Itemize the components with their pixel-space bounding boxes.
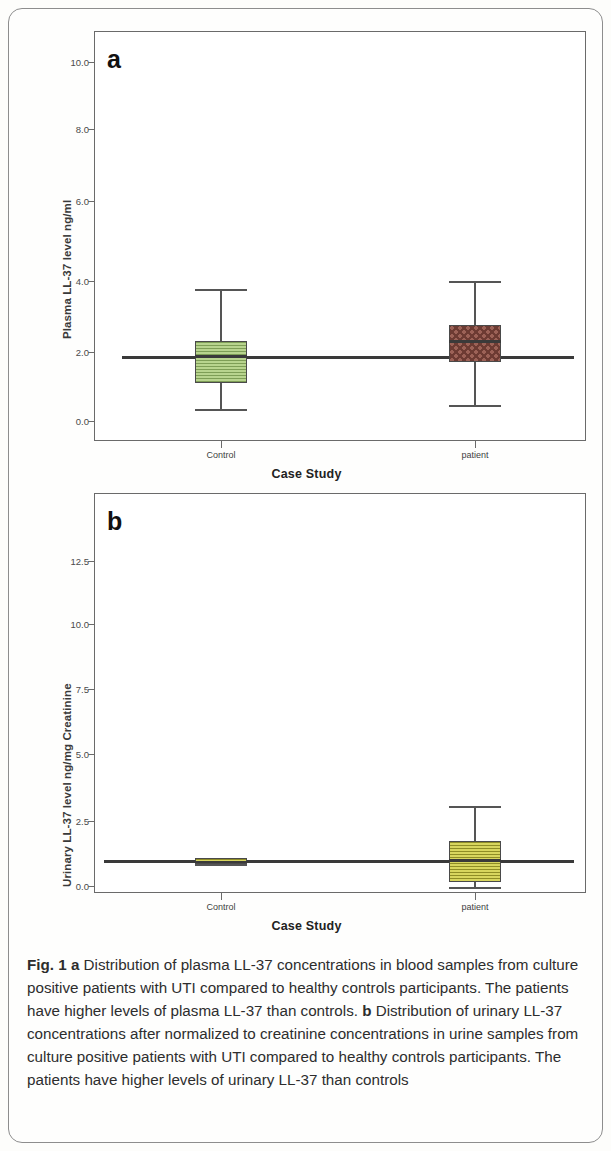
panel-b-ytick-label: 12.5 (57, 556, 89, 567)
panel-b-y-axis-label: Urinary LL-37 level ng/mg Creatinine (61, 683, 73, 887)
panel-b-ytick-label: 0.0 (57, 881, 89, 892)
box-median (449, 340, 501, 343)
panel-a-xtick-label-patient: patient (435, 450, 515, 460)
caption-figure-label: Fig. 1 (27, 956, 67, 973)
panel-a-ytick-label: 8.0 (59, 124, 89, 135)
panel-b-ytick-mark (88, 624, 95, 625)
whisker-lower (220, 383, 222, 410)
panel-b-xtick-label-patient: patient (435, 902, 515, 912)
panel-a: a Plasma LL-37 level ng/ml 10.0 8.0 6.0 … (9, 9, 604, 479)
panel-a-ytick-label: 0.0 (59, 416, 89, 427)
whisker-cap-lower (449, 405, 501, 407)
panel-a-ytick-mark (88, 129, 95, 130)
panel-a-reference-line (122, 356, 574, 359)
panel-b-x-axis-label: Case Study (9, 919, 604, 933)
panel-b-ytick-mark (88, 754, 95, 755)
panel-b-xtick-mark (221, 893, 222, 900)
panel-a-xtick-mark (475, 441, 476, 448)
box-median (195, 355, 247, 358)
panel-b-ytick-label: 5.0 (57, 749, 89, 760)
box-median (195, 861, 247, 863)
panel-a-ytick-label: 2.0 (59, 347, 89, 358)
panel-b-ytick-mark (88, 689, 95, 690)
panel-b-ytick-label: 7.5 (57, 684, 89, 695)
panel-a-letter: a (107, 45, 120, 74)
panel-b-reference-line (104, 860, 574, 863)
panel-b-ytick-mark (88, 561, 95, 562)
panel-a-ytick-label: 6.0 (59, 196, 89, 207)
whisker-cap-lower (195, 409, 247, 411)
panel-a-x-axis-label: Case Study (9, 467, 604, 481)
panel-a-xtick-mark (221, 441, 222, 448)
panel-b-ytick-label: 10.0 (57, 619, 89, 630)
panel-a-ytick-mark (88, 201, 95, 202)
whisker-upper (474, 281, 476, 326)
panel-b-plot-frame (94, 493, 586, 893)
panel-a-ytick-mark (88, 62, 95, 63)
panel-b-xtick-mark (475, 893, 476, 900)
whisker-cap-lower (195, 864, 247, 866)
panel-b-xtick-label-control: Control (181, 902, 261, 912)
figure-card: a Plasma LL-37 level ng/ml 10.0 8.0 6.0 … (8, 8, 603, 1143)
figure-caption: Fig. 1 a Distribution of plasma LL-37 co… (27, 953, 587, 1092)
panel-b: b Urinary LL-37 level ng/mg Creatinine 1… (9, 487, 604, 947)
panel-a-y-axis-label: Plasma LL-37 level ng/ml (61, 200, 73, 339)
panel-a-ytick-mark (88, 281, 95, 282)
panel-a-ytick-mark (88, 352, 95, 353)
panel-b-ytick-mark (88, 821, 95, 822)
whisker-upper (474, 806, 476, 842)
panel-a-ytick-mark (88, 421, 95, 422)
panel-a-ytick-label: 4.0 (59, 276, 89, 287)
panel-a-plot-frame (94, 31, 586, 441)
whisker-lower (474, 362, 476, 406)
panel-a-xtick-label-control: Control (181, 450, 261, 460)
whisker-cap-lower (449, 887, 501, 889)
panel-a-ytick-label: 10.0 (59, 57, 89, 68)
whisker-upper (220, 289, 222, 342)
panel-b-ytick-mark (88, 886, 95, 887)
box-iqr (449, 325, 501, 362)
panel-b-ytick-label: 2.5 (57, 816, 89, 827)
panel-b-letter: b (107, 507, 122, 536)
box-median (449, 859, 501, 862)
box-iqr (195, 341, 247, 383)
